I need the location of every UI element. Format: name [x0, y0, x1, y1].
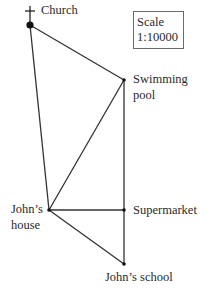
edge-church-johns-house: [30, 25, 49, 210]
scale-ratio: 1:10000: [134, 30, 183, 45]
edge-church-swimming-pool: [30, 25, 124, 80]
swimming-pool-point: [122, 78, 126, 82]
johns-house-label-line1: John’s: [11, 202, 43, 217]
supermarket-point: [122, 208, 126, 212]
map-diagram: Church Scale 1:10000 Swimming pool John’…: [0, 0, 207, 290]
scale-title: Scale: [134, 15, 183, 30]
johns-house-point: [47, 208, 51, 212]
church-point: [26, 21, 33, 28]
swimming-pool-label-line1: Swimming: [133, 72, 188, 87]
scale-box: Scale 1:10000: [133, 11, 184, 49]
johns-school-point: [122, 262, 126, 266]
church-cross-icon: [25, 6, 35, 24]
swimming-pool-label-line2: pool: [133, 88, 155, 103]
edge-johns-house-johns-school: [49, 210, 124, 264]
edge-johns-house-swimming-pool: [49, 80, 124, 210]
church-label: Church: [41, 3, 78, 18]
supermarket-label: Supermarket: [133, 203, 197, 218]
johns-house-label-line2: house: [11, 218, 40, 233]
johns-school-label: John’s school: [105, 270, 173, 285]
